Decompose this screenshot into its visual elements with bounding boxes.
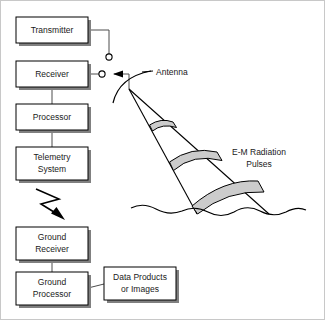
box-telemetry-system[interactable]: Telemetry System <box>16 147 91 183</box>
radar-system-diagram: Transmitter Receiver Processor Telemetry… <box>0 0 325 320</box>
box-telemetry-system-label-line1: Telemetry <box>34 152 72 162</box>
annotation-antenna-label: Antenna <box>156 67 188 77</box>
ground-wave-line <box>131 205 306 215</box>
box-transmitter-label: Transmitter <box>31 25 74 35</box>
pulse-band-far <box>192 181 264 214</box>
box-transmitter[interactable]: Transmitter <box>16 17 91 46</box>
block-boxes: Transmitter Receiver Processor Telemetry… <box>16 17 179 308</box>
antenna-leader <box>142 71 153 72</box>
transmitter-contact-circle <box>106 54 112 60</box>
antenna-leader-line <box>142 71 153 72</box>
box-ground-receiver-label-line1: Ground <box>38 232 67 242</box>
box-processor-label: Processor <box>33 112 71 122</box>
pulse-band-near <box>150 120 177 131</box>
box-processor[interactable]: Processor <box>16 104 91 133</box>
lightning-bolt-arrowhead <box>51 207 65 220</box>
box-data-products[interactable]: Data Products or Images <box>104 267 179 303</box>
connector-transmitter-to-switch <box>88 30 109 59</box>
tr-switch <box>99 54 112 77</box>
annotation-em-pulses-line2: Pulses <box>246 159 272 169</box>
box-receiver-label: Receiver <box>35 69 69 79</box>
box-ground-processor[interactable]: Ground Processor <box>16 272 91 308</box>
box-ground-processor-label-line2: Processor <box>33 289 71 299</box>
box-telemetry-system-label-line2: System <box>38 164 66 174</box>
feed-arrowhead <box>113 71 123 78</box>
diagram-canvas: Transmitter Receiver Processor Telemetry… <box>1 1 325 320</box>
ground-surface <box>131 205 306 215</box>
receiver-contact-circle <box>99 71 105 77</box>
box-data-products-label-line1: Data Products <box>113 272 167 282</box>
annotation-em-pulses-line1: E-M Radiation <box>232 147 286 157</box>
box-receiver[interactable]: Receiver <box>16 61 91 90</box>
pulse-band-mid <box>170 150 223 170</box>
annotations: Antenna E-M Radiation Pulses <box>156 67 286 169</box>
box-ground-receiver[interactable]: Ground Receiver <box>16 227 91 263</box>
box-ground-processor-label-line1: Ground <box>38 277 67 287</box>
box-ground-receiver-label-line2: Receiver <box>35 244 69 254</box>
box-data-products-label-line2: or Images <box>121 284 159 294</box>
lightning-bolt-downlink <box>36 189 65 220</box>
beam-edge-left <box>129 89 197 214</box>
